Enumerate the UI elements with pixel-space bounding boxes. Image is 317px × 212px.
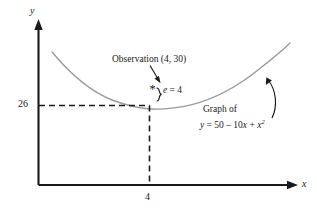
observation-marker-group: * bbox=[149, 81, 156, 96]
x-axis-label: x bbox=[302, 179, 306, 189]
graph-of-label: Graph of bbox=[203, 105, 237, 115]
residual-value: = 4 bbox=[167, 85, 182, 95]
residual-brace-icon bbox=[157, 88, 162, 101]
observation-annotation-label: Observation (4, 30) bbox=[112, 55, 186, 65]
x-axis-tick-label-4: 4 bbox=[145, 192, 150, 202]
curve-equation-label: y = 50 – 10x + x2 bbox=[200, 119, 265, 131]
equation-rhs-part-a: = 50 – 10 bbox=[204, 120, 243, 130]
graph-leader-arrow-icon bbox=[266, 77, 276, 118]
guide-lines-group bbox=[39, 106, 150, 185]
equation-rhs-part-b: + bbox=[247, 120, 257, 130]
axis-group bbox=[34, 19, 298, 189]
quadratic-curve bbox=[52, 43, 290, 109]
figure-canvas: * y x 26 4 Observation (4, 30) e = 4 Gra… bbox=[0, 0, 317, 212]
y-axis-tick-label-26: 26 bbox=[18, 99, 28, 109]
residual-annotation-label: e = 4 bbox=[163, 86, 182, 96]
plot-area: * bbox=[0, 0, 317, 212]
fitted-curve-group bbox=[52, 43, 290, 109]
equation-exponent: 2 bbox=[261, 118, 264, 125]
observation-asterisk-icon: * bbox=[149, 81, 156, 96]
y-axis-arrowhead bbox=[34, 19, 42, 30]
y-axis-label: y bbox=[30, 6, 34, 16]
x-axis-arrowhead bbox=[287, 181, 298, 190]
